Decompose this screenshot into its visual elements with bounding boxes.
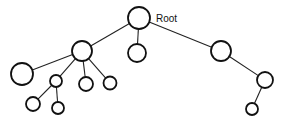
edge-n1-n5 bbox=[60, 59, 76, 77]
tree-node bbox=[72, 41, 92, 61]
edge-n10-n11 bbox=[254, 87, 261, 103]
root-label: Root bbox=[156, 13, 177, 24]
edge-n1-n7 bbox=[89, 59, 106, 79]
tree-node bbox=[52, 102, 64, 114]
nodes-group bbox=[11, 7, 273, 115]
edge-root-n1 bbox=[91, 24, 130, 46]
tree-node bbox=[26, 97, 40, 111]
edge-n5-n8 bbox=[38, 85, 52, 99]
edge-root-n3 bbox=[149, 22, 212, 47]
tree-node bbox=[104, 77, 117, 90]
edge-n3-n10 bbox=[229, 57, 258, 76]
tree-diagram: Root bbox=[0, 0, 285, 123]
tree-node bbox=[50, 75, 62, 87]
edge-n1-n4 bbox=[32, 55, 72, 70]
tree-node bbox=[211, 41, 231, 61]
tree-node bbox=[79, 77, 93, 91]
tree-node bbox=[128, 44, 146, 62]
edges-group bbox=[32, 22, 261, 103]
root-node bbox=[128, 7, 150, 29]
tree-node bbox=[257, 72, 273, 88]
edge-root-n2 bbox=[138, 29, 139, 44]
edge-n5-n9 bbox=[56, 87, 57, 102]
tree-svg: Root bbox=[0, 0, 285, 123]
edge-n1-n6 bbox=[83, 61, 85, 77]
tree-node bbox=[11, 63, 33, 85]
tree-node bbox=[246, 103, 258, 115]
